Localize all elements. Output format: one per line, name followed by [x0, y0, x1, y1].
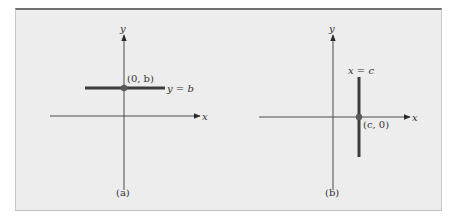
panel-a: x y (0, b) y = b (a)	[50, 23, 208, 198]
panel-b-caption: (b)	[325, 187, 339, 198]
panel-a-y-axis-label: y	[119, 23, 126, 34]
equation-label-x-equals-c: x = c	[348, 65, 374, 76]
point-0-b	[121, 85, 127, 91]
point-label-c-0: (c, 0)	[363, 119, 389, 130]
figure-canvas: x y (0, b) y = b (a) x y (c, 0) x = c (b…	[0, 0, 454, 222]
panel-b-y-axis-label: y	[328, 23, 335, 34]
point-c-0	[356, 114, 362, 120]
equation-label-y-equals-b: y = b	[166, 83, 194, 94]
panel-a-x-axis-label: x	[202, 111, 208, 122]
point-label-0-b: (0, b)	[127, 73, 154, 84]
panel-b-x-axis-label: x	[412, 112, 418, 123]
panel-a-caption: (a)	[116, 187, 130, 198]
panel-b: x y (c, 0) x = c (b)	[259, 23, 418, 198]
